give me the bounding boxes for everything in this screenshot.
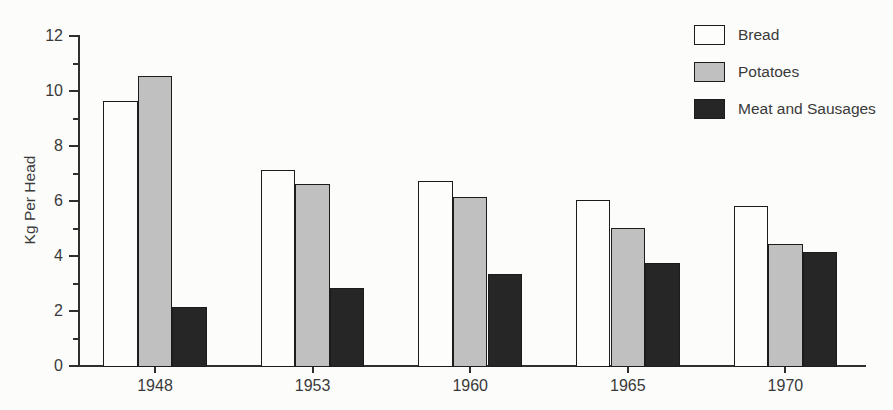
bar-potatoes-1960 xyxy=(453,197,488,367)
legend-label: Bread xyxy=(738,26,779,44)
bar-potatoes-1948 xyxy=(138,76,173,367)
y-axis xyxy=(78,35,80,367)
y-minor-tick xyxy=(73,173,78,175)
legend-label: Potatoes xyxy=(738,63,799,81)
x-tick xyxy=(627,367,629,373)
legend-item-potatoes: Potatoes xyxy=(694,61,876,82)
bar-potatoes-1970 xyxy=(768,244,803,367)
y-minor-tick xyxy=(73,118,78,120)
y-tick-label: 6 xyxy=(25,193,63,209)
x-category-label: 1960 xyxy=(430,378,510,394)
legend-label: Meat and Sausages xyxy=(738,100,876,118)
y-minor-tick xyxy=(73,283,78,285)
bar-bread-1960 xyxy=(418,181,453,367)
legend-swatch-icon xyxy=(694,25,725,45)
y-tick-label: 8 xyxy=(25,138,63,154)
legend-item-bread: Bread xyxy=(694,24,876,45)
y-major-tick xyxy=(69,255,78,257)
bar-meat-and-sausages-1953 xyxy=(330,288,365,367)
x-category-label: 1965 xyxy=(588,378,668,394)
x-category-label: 1953 xyxy=(273,378,353,394)
y-minor-tick xyxy=(73,63,78,65)
x-tick xyxy=(154,367,156,373)
legend: BreadPotatoesMeat and Sausages xyxy=(694,24,876,135)
bar-meat-and-sausages-1960 xyxy=(488,274,523,367)
y-major-tick xyxy=(69,310,78,312)
x-tick xyxy=(312,367,314,373)
bar-meat-and-sausages-1970 xyxy=(803,252,838,367)
y-major-tick xyxy=(69,200,78,202)
y-major-tick xyxy=(69,145,78,147)
bar-bread-1970 xyxy=(734,206,769,368)
y-minor-tick xyxy=(73,228,78,230)
x-category-label: 1970 xyxy=(745,378,825,394)
y-tick-label: 0 xyxy=(25,358,63,374)
bar-potatoes-1965 xyxy=(611,228,646,368)
legend-item-meat-and-sausages: Meat and Sausages xyxy=(694,98,876,119)
y-major-tick xyxy=(69,35,78,37)
bar-meat-and-sausages-1948 xyxy=(172,307,207,367)
bar-bread-1965 xyxy=(576,200,611,367)
legend-swatch-icon xyxy=(694,99,725,119)
y-major-tick xyxy=(69,90,78,92)
bar-potatoes-1953 xyxy=(295,184,330,368)
y-tick-label: 10 xyxy=(25,83,63,99)
y-tick-label: 4 xyxy=(25,248,63,264)
y-tick-label: 2 xyxy=(25,303,63,319)
legend-swatch-icon xyxy=(694,62,725,82)
x-tick xyxy=(469,367,471,373)
y-minor-tick xyxy=(73,338,78,340)
y-major-tick xyxy=(69,365,78,367)
bar-meat-and-sausages-1965 xyxy=(645,263,680,367)
bar-bread-1948 xyxy=(103,101,138,367)
x-tick xyxy=(784,367,786,373)
x-category-label: 1948 xyxy=(115,378,195,394)
y-tick-label: 12 xyxy=(25,28,63,44)
bar-chart-figure: Kg Per Head 0246810121948195319601965197… xyxy=(0,0,893,410)
bar-bread-1953 xyxy=(261,170,296,367)
